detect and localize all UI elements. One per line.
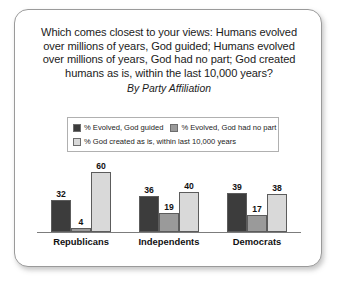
legend-row-1: % Evolved, God guided % Evolved, God had… xyxy=(73,122,273,133)
bar-set: 32460 xyxy=(37,170,125,232)
category-label-republicans: Republicans xyxy=(37,236,125,247)
bar-slot: 38 xyxy=(267,170,287,232)
bar-group-democrats: 391738Democrats xyxy=(213,170,301,232)
legend-label-series-3: % God created as is, within last 10,000 … xyxy=(84,136,236,147)
bar-value-label: 4 xyxy=(79,217,84,227)
legend-item-evolved-god-no-part: % Evolved, God had no part xyxy=(170,122,276,133)
bar-slot: 40 xyxy=(179,170,199,232)
bar-value-label: 17 xyxy=(252,204,262,214)
bar-independents-series-3[interactable] xyxy=(179,192,199,232)
bar-slot: 36 xyxy=(139,170,159,232)
bar-slot: 32 xyxy=(51,170,71,232)
bar-democrats-series-3[interactable] xyxy=(267,194,287,232)
bar-set: 361940 xyxy=(125,170,213,232)
chart-legend: % Evolved, God guided % Evolved, God had… xyxy=(67,117,279,152)
bar-slot: 39 xyxy=(227,170,247,232)
legend-item-evolved-god-guided: % Evolved, God guided xyxy=(73,122,163,133)
bar-value-label: 40 xyxy=(184,181,194,191)
page-title-line-3: over millions of years, God had no part;… xyxy=(29,53,309,67)
bar-independents-series-2[interactable] xyxy=(159,213,179,232)
bar-independents-series-1[interactable] xyxy=(139,196,159,232)
bar-value-label: 32 xyxy=(56,189,66,199)
bar-value-label: 36 xyxy=(144,185,154,195)
legend-swatch-icon-series-1 xyxy=(73,124,81,132)
x-axis-line xyxy=(37,232,301,233)
bar-democrats-series-2[interactable] xyxy=(247,215,267,232)
bar-value-label: 38 xyxy=(272,183,282,193)
chart-plot-area: 32460Republicans361940Independents391738… xyxy=(37,170,301,258)
bar-republicans-series-1[interactable] xyxy=(51,200,71,232)
page-title-line-4: humans as is, within the last 10,000 yea… xyxy=(29,67,309,81)
bar-slot: 4 xyxy=(71,170,91,232)
page-title-line-2: over millions of years, God guided; Huma… xyxy=(29,40,309,54)
page-title-line-1: Which comes closest to your views: Human… xyxy=(29,26,309,40)
legend-label-series-1: % Evolved, God guided xyxy=(84,122,163,133)
chart-card: Which comes closest to your views: Human… xyxy=(14,9,322,267)
bar-group-republicans: 32460Republicans xyxy=(37,170,125,232)
category-label-independents: Independents xyxy=(125,236,213,247)
bar-value-label: 39 xyxy=(232,182,242,192)
legend-swatch-icon-series-2 xyxy=(170,124,178,132)
bar-group-independents: 361940Independents xyxy=(125,170,213,232)
screenshot-root: Which comes closest to your views: Human… xyxy=(0,0,338,284)
bar-slot: 17 xyxy=(247,170,267,232)
bar-groups: 32460Republicans361940Independents391738… xyxy=(37,170,301,232)
category-label-democrats: Democrats xyxy=(213,236,301,247)
legend-item-god-created-as-is: % God created as is, within last 10,000 … xyxy=(73,136,236,147)
bar-value-label: 60 xyxy=(96,161,106,171)
bar-set: 391738 xyxy=(213,170,301,232)
legend-swatch-icon-series-3 xyxy=(73,138,81,146)
bar-slot: 60 xyxy=(91,170,111,232)
chart-subtitle: By Party Affiliation xyxy=(29,81,309,96)
chart-title-block: Which comes closest to your views: Human… xyxy=(29,26,309,96)
bar-slot: 19 xyxy=(159,170,179,232)
legend-row-2: % God created as is, within last 10,000 … xyxy=(73,136,273,147)
bar-value-label: 19 xyxy=(164,202,174,212)
bar-democrats-series-1[interactable] xyxy=(227,193,247,232)
legend-label-series-2: % Evolved, God had no part xyxy=(181,122,276,133)
bar-republicans-series-3[interactable] xyxy=(91,172,111,232)
